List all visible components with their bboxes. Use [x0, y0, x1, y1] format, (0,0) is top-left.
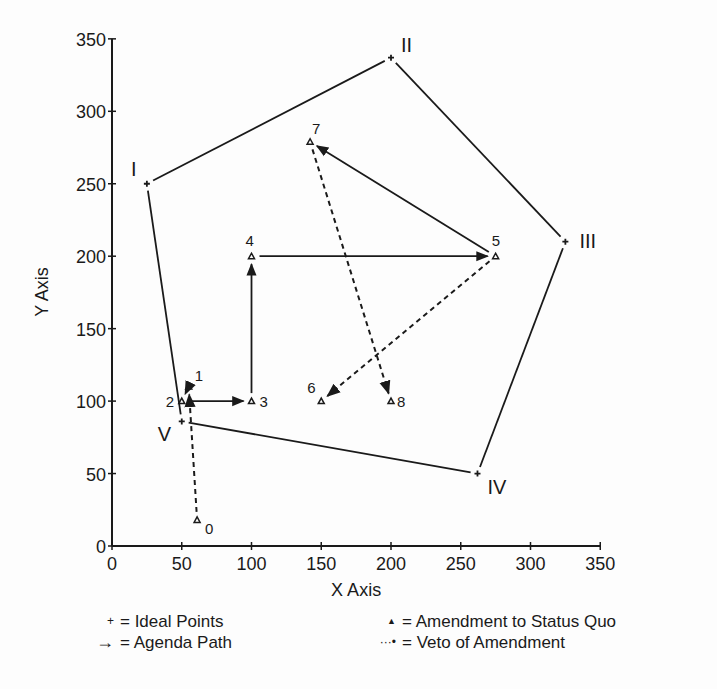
- veto-path-segment: [312, 149, 388, 393]
- triangle-icon: ▲: [362, 611, 396, 632]
- x-tick-label: 250: [446, 554, 476, 574]
- data-points: IIIIIIIVV012345678: [131, 34, 596, 537]
- legend-right: ▲ = Amendment to Status Quo ···• = Veto …: [362, 611, 616, 653]
- plus-icon: +: [80, 611, 114, 632]
- axes: 0501001502002503003500501001502002503003…: [32, 30, 615, 600]
- polygon-edge: [189, 423, 471, 473]
- x-tick-label: 350: [585, 554, 615, 574]
- amendment-marker: [493, 253, 499, 259]
- legend-item-ideal-points: + = Ideal Points: [80, 611, 232, 632]
- amendment-marker: [194, 517, 200, 523]
- ideal-point-label: IV: [487, 476, 507, 498]
- legend-item-agenda-path: → = Agenda Path: [80, 632, 232, 653]
- y-tick-label: 350: [76, 30, 106, 50]
- x-tick-label: 200: [376, 554, 406, 574]
- polygon-edge: [148, 191, 181, 415]
- ideal-point-label: I: [131, 158, 137, 180]
- chart-canvas: 0501001502002503003500501001502002503003…: [0, 0, 717, 600]
- amendment-label: 0: [205, 520, 213, 537]
- x-tick-label: 0: [107, 554, 117, 574]
- y-tick-label: 300: [76, 102, 106, 122]
- amendment-marker: [318, 398, 324, 404]
- amendment-label: 7: [312, 120, 320, 137]
- ideal-point-marker: [179, 418, 185, 424]
- y-tick-label: 50: [86, 465, 106, 485]
- amendment-label: 2: [166, 393, 174, 410]
- amendment-marker: [179, 398, 185, 404]
- y-tick-label: 150: [76, 320, 106, 340]
- x-tick-label: 300: [515, 554, 545, 574]
- amendment-label: 1: [195, 367, 203, 384]
- amendment-marker: [186, 384, 192, 390]
- legend-left: + = Ideal Points → = Agenda Path: [80, 611, 232, 653]
- y-axis-label: Y Axis: [32, 267, 52, 317]
- y-tick-label: 200: [76, 247, 106, 267]
- legend-item-veto: ···• = Veto of Amendment: [362, 632, 616, 653]
- ideal-point-label: II: [401, 34, 412, 56]
- x-axis-label: X Axis: [331, 580, 381, 600]
- legend-item-amendment: ▲ = Amendment to Status Quo: [362, 611, 616, 632]
- amendment-marker: [388, 398, 394, 404]
- ideal-points-polygon: [148, 61, 563, 472]
- agenda-path-segment: [317, 146, 489, 252]
- amendment-label: 4: [246, 232, 254, 249]
- y-tick-label: 100: [76, 392, 106, 412]
- amendment-marker: [249, 398, 255, 404]
- legend-label: = Ideal Points: [120, 611, 224, 632]
- ideal-point-marker: [144, 181, 150, 187]
- y-tick-label: 250: [76, 175, 106, 195]
- amendment-label: 8: [397, 393, 405, 410]
- amendment-label: 3: [260, 393, 268, 410]
- polygon-edge: [480, 248, 563, 467]
- amendment-marker: [249, 253, 255, 259]
- ideal-point-label: III: [579, 230, 596, 252]
- y-tick-label: 0: [96, 537, 106, 557]
- ideal-point-marker: [388, 55, 394, 61]
- legend-label: = Amendment to Status Quo: [402, 611, 616, 632]
- x-tick-label: 100: [236, 554, 266, 574]
- legend-label: = Veto of Amendment: [402, 632, 565, 653]
- veto-path-segment: [189, 395, 196, 512]
- amendment-marker: [307, 139, 313, 145]
- x-tick-label: 50: [172, 554, 192, 574]
- ideal-point-marker: [474, 471, 480, 477]
- ideal-point-marker: [562, 239, 568, 245]
- agenda-and-veto-paths: [185, 146, 489, 512]
- amendment-label: 6: [307, 379, 315, 396]
- dotted-arrow-icon: ···•: [362, 632, 396, 653]
- ideal-point-label: V: [158, 423, 172, 445]
- amendment-label: 5: [492, 232, 500, 249]
- veto-path-segment: [327, 261, 489, 396]
- legend-label: = Agenda Path: [120, 632, 232, 653]
- polygon-edge: [153, 61, 385, 181]
- arrow-icon: →: [80, 632, 114, 653]
- x-tick-label: 150: [306, 554, 336, 574]
